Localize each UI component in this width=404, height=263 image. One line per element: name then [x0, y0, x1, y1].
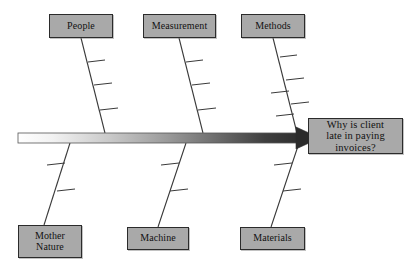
category-label-people: People: [67, 21, 95, 32]
sub-cause-tick-materials-1: [274, 163, 292, 165]
sub-cause-tick-measurement-2: [192, 83, 210, 85]
effect-label: Why is client late in paying invoices?: [326, 119, 385, 153]
category-label-materials: Materials: [253, 233, 292, 244]
sub-cause-tick-people-2: [94, 83, 112, 85]
sub-cause-tick-people-1: [88, 60, 105, 62]
fishbone-diagram-canvas: PeopleMeasurementMethodsMother NatureMac…: [0, 0, 404, 263]
sub-cause-tick-measurement-1: [186, 60, 203, 62]
spine-arrow: [18, 127, 320, 149]
sub-cause-tick-materials-2: [283, 189, 301, 191]
category-box-materials[interactable]: Materials: [240, 227, 305, 250]
sub-cause-tick-measurement-3: [198, 108, 216, 110]
sub-cause-tick-mother-nature-1: [47, 163, 65, 165]
category-box-methods[interactable]: Methods: [241, 14, 305, 38]
sub-cause-tick-methods-5: [276, 114, 294, 116]
effect-box[interactable]: Why is client late in paying invoices?: [308, 118, 403, 154]
bone-line-mother-nature: [44, 143, 70, 225]
bone-line-people: [81, 38, 105, 133]
category-label-measurement: Measurement: [152, 21, 208, 32]
category-label-methods: Methods: [255, 21, 291, 32]
sub-cause-tick-methods-2: [286, 78, 304, 80]
sub-cause-tick-machine-2: [170, 189, 188, 191]
category-label-mother-nature: Mother Nature: [35, 231, 65, 253]
bone-lines-group: [44, 38, 299, 227]
sub-cause-tick-machine-1: [161, 163, 179, 165]
category-box-people[interactable]: People: [49, 14, 113, 38]
spine-bar: [18, 133, 305, 143]
category-box-measurement[interactable]: Measurement: [143, 14, 216, 38]
category-box-mother-nature[interactable]: Mother Nature: [18, 225, 82, 258]
bone-line-measurement: [179, 38, 203, 133]
category-box-machine[interactable]: Machine: [127, 227, 189, 250]
sub-cause-tick-methods-4: [291, 102, 309, 104]
sub-cause-tick-methods-1: [280, 55, 297, 57]
sub-cause-tick-mother-nature-2: [57, 189, 75, 191]
bone-line-methods: [273, 38, 297, 133]
sub-cause-tick-people-3: [100, 108, 118, 110]
category-label-machine: Machine: [140, 233, 176, 244]
sub-cause-ticks-group: [47, 55, 309, 191]
bone-line-machine: [158, 143, 186, 227]
bone-line-materials: [271, 143, 299, 227]
